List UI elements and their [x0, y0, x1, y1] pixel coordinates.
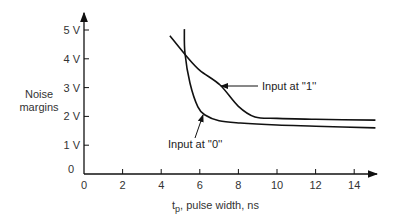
- y-tick-label: 0: [68, 163, 74, 175]
- y-tick-label: 5 V: [63, 24, 80, 36]
- x-tick-label: 12: [309, 179, 321, 191]
- series-input-at-1: [170, 36, 376, 120]
- y-tick-label: 1 V: [63, 139, 80, 151]
- y-tick-label: 2 V: [63, 110, 80, 122]
- y-axis-label: Noise margins: [14, 88, 64, 114]
- x-tick-label: 2: [120, 179, 126, 191]
- y-tick-label: 3 V: [63, 82, 80, 94]
- x-axis-label: tp, pulse width, ns: [172, 199, 259, 214]
- x-tick-label: 4: [158, 179, 164, 191]
- y-tick-label: 4 V: [63, 53, 80, 65]
- x-tick-label: 6: [197, 179, 203, 191]
- x-tick-label: 14: [348, 179, 360, 191]
- x-tick-label: 10: [271, 179, 283, 191]
- axes: 0246810121401 V2 V3 V4 V5 V: [63, 13, 377, 191]
- annotations: Input at ''1''Input at ''0'': [168, 80, 316, 150]
- x-tick-label: 8: [235, 179, 241, 191]
- label-input-at-1: Input at ''1'': [262, 80, 316, 92]
- y-axis-label-line2: margins: [14, 101, 64, 114]
- x-tick-label: 0: [81, 179, 87, 191]
- series-input-at-0: [184, 29, 375, 128]
- arrow-input-0: [195, 115, 203, 138]
- label-input-at-0: Input at ''0'': [168, 138, 222, 150]
- series-lines: [170, 29, 376, 128]
- y-axis-label-line1: Noise: [14, 88, 64, 101]
